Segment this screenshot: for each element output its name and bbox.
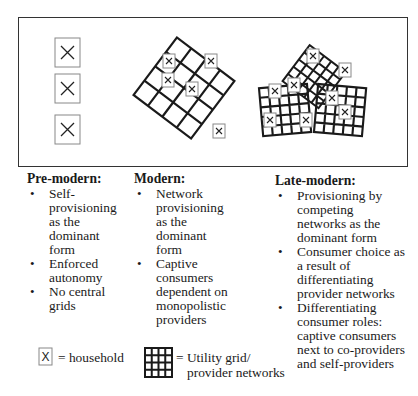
premodern-households — [55, 38, 80, 144]
legend-grid-label-line2: provider networks — [187, 366, 285, 380]
legend-household-symbol: X — [41, 350, 49, 364]
stage-bullet: Captive consumers dependent on monopolis… — [134, 257, 234, 327]
legend-grid-icon — [145, 348, 172, 377]
stage-bullet: Enforced autonomy — [27, 257, 109, 285]
legend-household-label: = household — [58, 351, 124, 365]
modern-utility-grid — [134, 38, 235, 139]
stage-bullet: Provisioning by competing networks as th… — [275, 189, 405, 245]
stage-bullet: Self-provisioning as the dominant form — [27, 187, 109, 257]
stage-bullet: Differentiating consumer roles: captive … — [275, 301, 405, 371]
stage-bullet: Network provisioning as the dominant for… — [134, 187, 234, 257]
stage-bullet: Consumer choice as a result of different… — [275, 245, 405, 301]
stage-title: Pre-modern: — [27, 172, 122, 186]
stage-bullet: No central grids — [27, 285, 109, 313]
legend-grid-label-line1: = Utility grid/ — [176, 351, 251, 365]
latemodern-competing-grids — [259, 45, 366, 136]
stage-title: Late-modern: — [275, 174, 415, 188]
stage-latemodern: Late-modern: Provisioning by competing n… — [275, 174, 415, 371]
stage-premodern: Pre-modern: Self-provisioning as the dom… — [27, 172, 122, 313]
stage-title: Modern: — [134, 172, 244, 186]
stage-modern: Modern: Network provisioning as the domi… — [134, 172, 244, 327]
